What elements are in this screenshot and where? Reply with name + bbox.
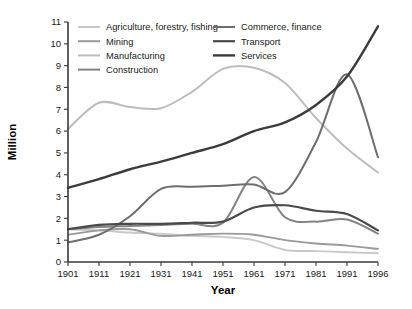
y-tick-label: 7 bbox=[56, 104, 61, 115]
legend-label: Construction bbox=[106, 65, 158, 75]
legend-item-manufacturing: Manufacturing bbox=[78, 51, 165, 61]
y-tick-label: 5 bbox=[56, 147, 61, 158]
y-tick-label: 9 bbox=[56, 60, 61, 71]
y-tick-label: 1 bbox=[56, 235, 61, 246]
x-axis-title: Year bbox=[211, 284, 236, 296]
x-tick-label: 1911 bbox=[89, 268, 109, 279]
x-tick-label: 1931 bbox=[150, 268, 171, 279]
legend-item-mining: Mining bbox=[78, 37, 133, 47]
x-tick-label: 1981 bbox=[305, 268, 326, 279]
legend-label: Commerce, finance bbox=[241, 22, 322, 32]
legend-label: Mining bbox=[106, 37, 133, 47]
y-tick-label: 10 bbox=[50, 38, 61, 49]
chart-canvas: 0123456789101119011911192119311941195119… bbox=[0, 0, 412, 309]
legend-item-transport: Transport bbox=[213, 37, 281, 47]
legend: Agriculture, forestry, fishingMiningManu… bbox=[78, 22, 322, 75]
x-tick-label: 1941 bbox=[181, 268, 202, 279]
legend-label: Manufacturing bbox=[106, 51, 165, 61]
series-line-commerce-finance bbox=[68, 74, 378, 242]
axes: 0123456789101119011911192119311941195119… bbox=[6, 16, 389, 296]
y-tick-label: 3 bbox=[56, 191, 61, 202]
legend-item-services: Services bbox=[213, 51, 277, 61]
legend-item-commerce-finance: Commerce, finance bbox=[213, 22, 322, 32]
legend-item-agriculture-forestry-fishing: Agriculture, forestry, fishing bbox=[78, 22, 218, 32]
x-tick-label: 1961 bbox=[243, 268, 264, 279]
y-tick-label: 4 bbox=[56, 169, 61, 180]
x-tick-label: 1996 bbox=[367, 268, 388, 279]
y-tick-label: 8 bbox=[56, 82, 61, 93]
y-tick-label: 6 bbox=[56, 125, 61, 136]
y-axis-title: Million bbox=[6, 124, 18, 160]
x-tick-label: 1901 bbox=[57, 268, 78, 279]
x-tick-label: 1991 bbox=[336, 268, 357, 279]
legend-label: Services bbox=[241, 51, 277, 61]
legend-item-construction: Construction bbox=[78, 65, 158, 75]
y-tick-label: 0 bbox=[56, 256, 61, 267]
legend-label: Agriculture, forestry, fishing bbox=[106, 22, 218, 32]
x-tick-label: 1971 bbox=[274, 268, 295, 279]
y-tick-label: 11 bbox=[51, 16, 61, 27]
x-tick-label: 1921 bbox=[119, 268, 140, 279]
y-tick-label: 2 bbox=[56, 213, 61, 224]
x-tick-label: 1951 bbox=[212, 268, 233, 279]
legend-label: Transport bbox=[241, 37, 281, 47]
series-line-manufacturing bbox=[68, 66, 378, 172]
line-chart: 0123456789101119011911192119311941195119… bbox=[0, 0, 412, 309]
